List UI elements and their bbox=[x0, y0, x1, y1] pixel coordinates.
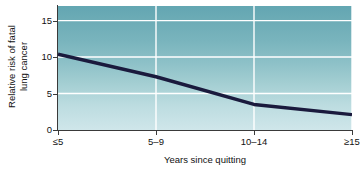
y-axis-tick-label: 10 bbox=[34, 52, 52, 62]
y-axis-tick-label: 5 bbox=[34, 89, 52, 99]
x-axis-title: Years since quitting bbox=[58, 154, 352, 166]
y-axis-title-line-1: Relative risk of fatal bbox=[6, 25, 18, 108]
x-axis-tick-label: 5–9 bbox=[148, 136, 164, 148]
y-axis-title-line-2: lung cancer bbox=[17, 25, 29, 108]
y-axis-title-text: Relative risk of fatal lung cancer bbox=[6, 25, 29, 108]
y-axis-title: Relative risk of fatal lung cancer bbox=[0, 0, 34, 132]
y-axis-tick-label: 0 bbox=[34, 125, 52, 135]
horizontal-gridlines bbox=[58, 21, 352, 94]
x-axis-tick-mark bbox=[352, 131, 353, 135]
data-series-line bbox=[58, 54, 352, 115]
x-axis-tick-label: ≥15 bbox=[344, 136, 360, 148]
x-axis-tick-labels: ≤55–910–14≥15 bbox=[0, 136, 358, 150]
plot-svg bbox=[58, 6, 352, 130]
x-axis-tick-mark bbox=[254, 131, 255, 135]
x-axis-tick-mark bbox=[58, 131, 59, 135]
y-axis-tick-label: 15 bbox=[34, 16, 52, 26]
x-axis-tick-label: ≤5 bbox=[53, 136, 64, 148]
x-axis-tick-mark bbox=[156, 131, 157, 135]
plot-area bbox=[58, 6, 352, 130]
x-axis-tick-label: 10–14 bbox=[241, 136, 267, 148]
